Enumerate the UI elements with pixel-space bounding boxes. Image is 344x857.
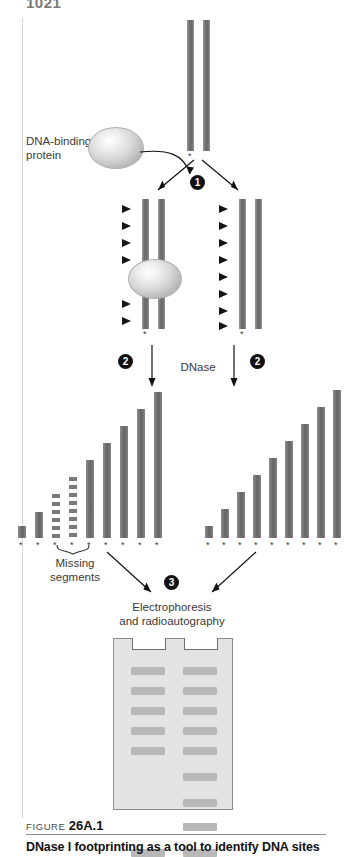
ladder-bar xyxy=(301,424,309,538)
ladder-bar xyxy=(285,441,293,538)
cut-site-icon xyxy=(219,307,228,315)
ladder-bar-marker: * xyxy=(104,542,108,548)
branch-arrow-right xyxy=(198,158,248,200)
ladder-bar xyxy=(154,392,162,538)
ladder-bar xyxy=(269,458,277,538)
ladder-bar-marker: * xyxy=(318,542,322,548)
electrophoresis-label: Electrophoresisand radioautography xyxy=(92,600,252,628)
cut-site-icon xyxy=(219,222,228,230)
gel-band xyxy=(183,773,217,781)
step3-arrow-right xyxy=(198,550,258,602)
ladder-bar xyxy=(120,426,128,538)
missing-segments-label: Missingsegments xyxy=(40,556,110,584)
free-dna-label-marker: * xyxy=(240,331,244,337)
caption-figure-number: 26A.1 xyxy=(69,818,104,833)
gel-band xyxy=(183,799,217,807)
ladder-bar xyxy=(137,409,145,538)
ladder-bar-marker: * xyxy=(270,542,274,548)
step-1-marker: 1 xyxy=(190,175,205,190)
ladder-bar-marker: * xyxy=(302,542,306,548)
ladder-bar-marker: * xyxy=(36,542,40,548)
cut-site-icon xyxy=(122,205,131,213)
dnase-arrow-right xyxy=(228,345,242,390)
caption-title: DNase I footprinting as a tool to identi… xyxy=(26,840,320,854)
step3-arrow-left xyxy=(105,550,165,602)
dna-binding-protein-ellipse xyxy=(88,127,144,169)
cut-site-icon xyxy=(219,256,228,264)
ladder-bar-marker: * xyxy=(334,542,338,548)
step-3-marker: 3 xyxy=(164,575,179,590)
bound-protein-ellipse xyxy=(128,259,182,299)
ladder-bar xyxy=(253,475,261,538)
ladder-bar xyxy=(333,390,341,538)
ladder-bar-marker: * xyxy=(222,542,226,548)
ladder-bar xyxy=(103,443,111,538)
step-2-left-marker: 2 xyxy=(118,354,133,369)
cut-site-icon xyxy=(122,239,131,247)
ladder-bar-marker: * xyxy=(238,542,242,548)
fragment-ladder-protected: ********* xyxy=(18,390,168,540)
cut-site-icon xyxy=(122,300,131,308)
dnase-arrow-left xyxy=(146,345,160,390)
caption-rule xyxy=(26,834,326,835)
ladder-bar-missing xyxy=(52,494,60,538)
ladder-bar xyxy=(317,407,325,538)
gel-band xyxy=(183,727,217,735)
dnase-label: DNase xyxy=(168,360,228,374)
gel-band xyxy=(183,823,217,831)
cut-site-icon xyxy=(219,205,228,213)
step-2-right-marker: 2 xyxy=(250,354,265,369)
gel-band xyxy=(183,687,217,695)
gel-band xyxy=(131,747,165,755)
fragment-ladder-free: ********* xyxy=(205,390,344,540)
gel-band xyxy=(131,707,165,715)
top-dna-strand-right xyxy=(203,20,210,151)
ladder-bar xyxy=(237,492,245,538)
caption-kicker-prefix: FIGURE xyxy=(26,821,69,832)
gel-lane-protected xyxy=(131,639,167,809)
figure-page: 1021 * DNA-bindingprotein 1 * * 2 xyxy=(0,0,344,857)
ladder-bar xyxy=(221,509,229,538)
caption-kicker: FIGURE 26A.1 xyxy=(26,818,103,833)
ladder-bar-marker: * xyxy=(155,542,159,548)
autoradiogram-gel xyxy=(113,638,233,810)
top-dna-strand-left xyxy=(187,20,194,151)
cut-site-icon xyxy=(122,256,131,264)
ladder-bar xyxy=(86,460,94,538)
ladder-bar xyxy=(205,526,213,538)
page-number: 1021 xyxy=(26,0,61,11)
gel-band xyxy=(183,747,217,755)
gel-lane-free xyxy=(183,639,219,809)
ladder-bar-marker: * xyxy=(206,542,210,548)
cut-site-icon xyxy=(219,290,228,298)
free-dna-strand-left xyxy=(239,199,246,329)
cut-site-icon xyxy=(219,322,228,330)
ladder-bar-marker: * xyxy=(19,542,23,548)
cut-site-icon xyxy=(122,222,131,230)
gel-band xyxy=(131,687,165,695)
gel-band xyxy=(183,667,217,675)
ladder-bar-marker: * xyxy=(254,542,258,548)
gel-band xyxy=(183,707,217,715)
free-dna-strand-right xyxy=(255,199,262,329)
ladder-bar-marker: * xyxy=(121,542,125,548)
gel-band xyxy=(131,727,165,735)
ladder-bar xyxy=(35,512,43,538)
ladder-bar-marker: * xyxy=(286,542,290,548)
bound-dna-label-marker: * xyxy=(143,331,147,337)
ladder-bar xyxy=(18,526,26,538)
ladder-bar-missing xyxy=(69,477,77,538)
ladder-bar-marker: * xyxy=(138,542,142,548)
cut-site-icon xyxy=(219,239,228,247)
gel-band xyxy=(131,667,165,675)
cut-site-icon xyxy=(122,317,131,325)
cut-site-icon xyxy=(219,273,228,281)
